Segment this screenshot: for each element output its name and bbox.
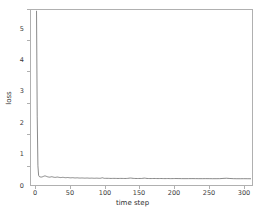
ytick-mark [27, 103, 30, 104]
plot-area [30, 9, 253, 186]
xtick-label-250: 250 [196, 190, 222, 197]
xtick-label-100: 100 [92, 190, 118, 197]
ytick-mark [27, 9, 30, 10]
xtick-label-0: 0 [22, 190, 48, 197]
y-axis-label: loss [5, 91, 13, 105]
xtick-label-200: 200 [161, 190, 187, 197]
ytick-mark [27, 166, 30, 167]
ytick-mark [27, 40, 30, 41]
figure: 5 4 3 2 1 0 0 50 100 150 200 250 300 tim… [0, 0, 265, 214]
loss-line-series [31, 10, 252, 185]
xtick-label-50: 50 [57, 190, 83, 197]
xtick-label-300: 300 [231, 190, 257, 197]
ytick-mark [27, 134, 30, 135]
y-axis-label-container: loss [4, 0, 14, 195]
ytick-mark [27, 71, 30, 72]
loss-curve [37, 11, 251, 179]
x-axis-label: time step [0, 199, 265, 207]
xtick-label-150: 150 [126, 190, 152, 197]
